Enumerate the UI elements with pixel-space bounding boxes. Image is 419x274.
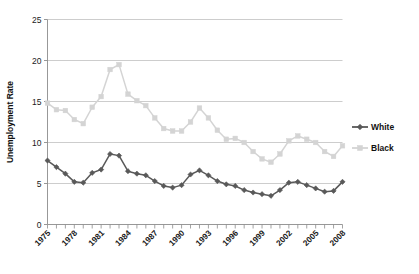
- data-point-marker: [99, 94, 104, 99]
- data-point-marker: [206, 116, 211, 121]
- x-tick-label: 2005: [301, 228, 321, 248]
- data-point-marker: [188, 120, 193, 125]
- data-point-marker: [72, 117, 77, 122]
- data-point-marker: [81, 121, 86, 126]
- x-tick-label: 1993: [194, 228, 214, 248]
- x-tick-label: 2002: [275, 228, 295, 248]
- data-point-marker: [197, 106, 202, 111]
- data-point-marker: [259, 192, 264, 197]
- legend-item-white[interactable]: White: [352, 122, 394, 132]
- data-point-marker: [242, 187, 247, 192]
- data-point-marker: [251, 190, 256, 195]
- data-point-marker: [260, 157, 265, 162]
- data-point-marker: [331, 154, 336, 159]
- y-tick-label: 15: [32, 97, 42, 107]
- data-point-marker: [233, 183, 238, 188]
- data-point-marker: [233, 136, 238, 141]
- y-tick-label: 0: [37, 220, 42, 230]
- data-point-marker: [54, 107, 59, 112]
- data-point-marker: [287, 139, 292, 144]
- data-point-marker: [278, 152, 283, 157]
- series-line: [48, 65, 343, 163]
- y-tick-label: 10: [32, 138, 42, 148]
- data-point-marker: [126, 92, 131, 97]
- data-point-marker: [322, 149, 327, 154]
- x-tick-label: 1990: [167, 228, 187, 248]
- legend-label: White: [371, 122, 394, 132]
- y-tick-label: 20: [32, 56, 42, 66]
- data-point-marker: [269, 160, 274, 165]
- x-tick-label: 2008: [328, 228, 348, 248]
- legend-item-black[interactable]: Black: [352, 143, 394, 153]
- series-black: [45, 62, 345, 164]
- data-point-marker: [63, 108, 68, 113]
- x-tick-label: 1984: [114, 228, 134, 248]
- axis-lines: [44, 20, 343, 225]
- legend-label: Black: [371, 143, 394, 153]
- unemployment-rate-chart: 0510152025 19751978198119841987199019931…: [0, 0, 419, 274]
- data-point-marker: [179, 129, 184, 134]
- gridlines: [48, 20, 343, 184]
- data-point-marker: [152, 116, 157, 121]
- data-point-marker: [313, 186, 318, 191]
- data-point-marker: [161, 126, 166, 131]
- legend-swatch-marker: [358, 146, 363, 151]
- data-point-marker: [144, 103, 149, 108]
- x-tick-label: 1987: [140, 228, 160, 248]
- y-tick-label: 5: [37, 179, 42, 189]
- data-point-marker: [117, 62, 122, 67]
- x-tick-label: 1999: [248, 228, 268, 248]
- data-point-marker: [304, 137, 309, 142]
- x-tick-label: 1996: [221, 228, 241, 248]
- chart-legend: WhiteBlack: [352, 122, 394, 153]
- data-point-marker: [313, 140, 318, 145]
- data-point-marker: [251, 149, 256, 154]
- data-point-marker: [45, 101, 50, 106]
- chart-canvas: 0510152025 19751978198119841987199019931…: [0, 0, 419, 274]
- x-tick-label: 1981: [87, 228, 107, 248]
- legend-swatch-marker: [357, 124, 363, 130]
- x-axis-tick-labels: 1975197819811984198719901993199619992002…: [33, 228, 348, 248]
- series-white: [45, 151, 345, 198]
- data-point-marker: [242, 140, 247, 145]
- y-tick-label: 25: [32, 15, 42, 25]
- data-point-marker: [170, 185, 175, 190]
- data-point-marker: [322, 189, 327, 194]
- data-point-marker: [296, 134, 301, 139]
- data-point-marker: [108, 67, 113, 72]
- data-point-marker: [134, 171, 139, 176]
- data-point-marker: [224, 182, 229, 187]
- x-axis-ticks: [48, 225, 343, 229]
- data-point-marker: [340, 143, 345, 148]
- data-point-marker: [215, 128, 220, 133]
- x-tick-label: 1978: [60, 228, 80, 248]
- data-point-marker: [170, 129, 175, 134]
- x-tick-label: 1975: [33, 228, 53, 248]
- y-axis-title: Unemployment Rate: [5, 81, 15, 163]
- data-point-marker: [90, 105, 95, 110]
- y-axis-tick-labels: 0510152025: [32, 15, 42, 230]
- data-point-marker: [224, 137, 229, 142]
- data-point-marker: [135, 98, 140, 103]
- data-series: [45, 62, 345, 198]
